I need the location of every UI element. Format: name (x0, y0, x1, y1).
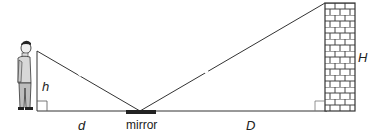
label-D: D (246, 119, 255, 132)
label-H: H (358, 51, 367, 64)
incident-ray (37, 51, 140, 111)
right-angle-wall (315, 101, 325, 111)
mirror-icon (126, 110, 156, 114)
person-icon (18, 41, 33, 110)
label-h: h (42, 80, 49, 93)
reflected-ray (140, 3, 325, 111)
label-d: d (78, 119, 85, 132)
right-angle-person (37, 101, 47, 111)
label-mirror: mirror (126, 119, 157, 131)
mirror-diagram (0, 0, 381, 132)
brick-wall-icon (325, 3, 355, 111)
